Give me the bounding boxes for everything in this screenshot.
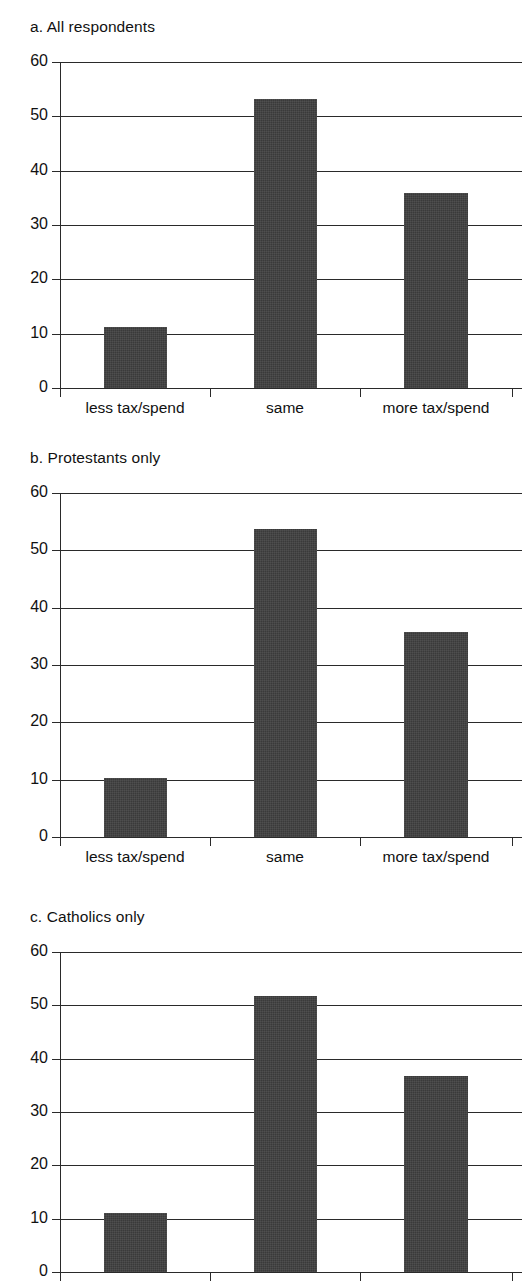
y-tick-mark — [52, 225, 61, 226]
y-tick-label: 20 — [2, 713, 48, 729]
y-tick-label: 60 — [2, 484, 48, 500]
x-tick-mark — [360, 388, 361, 397]
y-tick-mark — [52, 722, 61, 723]
y-tick-mark — [52, 608, 61, 609]
y-tick-label: 60 — [2, 943, 48, 959]
panel-b-title: b. Protestants only — [30, 449, 160, 467]
y-tick-mark — [52, 334, 61, 335]
bar — [404, 1076, 468, 1272]
y-tick-label: 30 — [2, 216, 48, 232]
gridline — [60, 62, 522, 63]
bar — [254, 996, 317, 1272]
panel-a-title: a. All respondents — [30, 18, 155, 36]
y-tick-mark — [52, 171, 61, 172]
y-tick-label: 20 — [2, 1156, 48, 1172]
y-tick-label: 50 — [2, 107, 48, 123]
y-tick-mark — [52, 116, 61, 117]
y-tick-mark — [52, 62, 61, 63]
x-tick-mark — [210, 837, 211, 846]
x-tick-mark — [512, 388, 513, 397]
y-tick-mark — [52, 1005, 61, 1006]
x-category-label: less tax/spend — [85, 399, 184, 417]
panel-c: c. Catholics only 0102030405060 — [0, 908, 532, 1275]
axis-baseline — [60, 388, 522, 389]
x-tick-mark — [60, 388, 61, 397]
x-tick-mark — [210, 388, 211, 397]
y-tick-label: 10 — [2, 771, 48, 787]
y-tick-mark — [52, 780, 61, 781]
x-tick-mark — [210, 1272, 211, 1281]
y-tick-mark — [52, 1219, 61, 1220]
bar — [104, 778, 167, 837]
bar — [254, 99, 317, 388]
y-tick-mark — [52, 952, 61, 953]
x-category-label: less tax/spend — [85, 848, 184, 866]
y-tick-label: 40 — [2, 162, 48, 178]
y-tick-mark — [52, 279, 61, 280]
x-tick-mark — [60, 837, 61, 846]
y-tick-label: 0 — [2, 828, 48, 844]
y-tick-label: 10 — [2, 325, 48, 341]
y-tick-label: 50 — [2, 541, 48, 557]
y-tick-mark — [52, 665, 61, 666]
x-category-label: more tax/spend — [383, 848, 490, 866]
y-tick-label: 40 — [2, 599, 48, 615]
y-tick-label: 0 — [2, 1263, 48, 1279]
y-tick-mark — [52, 1059, 61, 1060]
y-tick-mark — [52, 550, 61, 551]
y-tick-mark — [52, 493, 61, 494]
y-tick-label: 20 — [2, 270, 48, 286]
bar — [104, 1213, 167, 1272]
panel-b: b. Protestants only 0102030405060less ta… — [0, 449, 532, 861]
y-tick-mark — [52, 1112, 61, 1113]
y-tick-mark — [52, 1165, 61, 1166]
panel-c-title: c. Catholics only — [30, 908, 145, 926]
x-tick-mark — [512, 1272, 513, 1281]
y-tick-label: 60 — [2, 53, 48, 69]
y-tick-label: 30 — [2, 656, 48, 672]
y-tick-label: 40 — [2, 1050, 48, 1066]
y-tick-label: 30 — [2, 1103, 48, 1119]
axis-baseline — [60, 837, 522, 838]
bar — [104, 327, 167, 388]
y-tick-label: 10 — [2, 1210, 48, 1226]
bar — [254, 529, 317, 837]
gridline — [60, 493, 522, 494]
x-tick-mark — [60, 1272, 61, 1281]
y-tick-label: 0 — [2, 379, 48, 395]
x-category-label: same — [266, 399, 304, 417]
bar — [404, 193, 468, 388]
panel-a: a. All respondents 0102030405060less tax… — [0, 18, 532, 430]
y-tick-label: 50 — [2, 996, 48, 1012]
x-category-label: more tax/spend — [383, 399, 490, 417]
gridline — [60, 952, 522, 953]
x-category-label: same — [266, 848, 304, 866]
bar — [404, 632, 468, 837]
x-tick-mark — [512, 837, 513, 846]
x-tick-mark — [360, 1272, 361, 1281]
axis-baseline — [60, 1272, 522, 1273]
x-tick-mark — [360, 837, 361, 846]
